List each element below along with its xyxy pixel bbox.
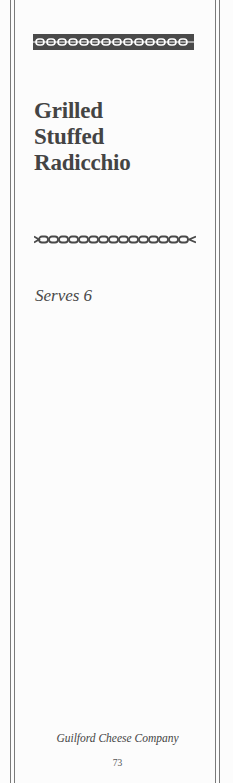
right-inner-rule <box>215 0 216 783</box>
recipe-title-line-3: Radicchio <box>34 150 131 176</box>
book-page: Grilled Stuffed Radicchio <box>0 0 233 783</box>
chain-divider <box>34 235 196 244</box>
top-chain-ornament <box>33 34 194 50</box>
chain-ornament-icon <box>33 34 194 50</box>
page-number: 73 <box>20 758 215 768</box>
recipe-title-line-2: Stuffed <box>34 124 131 150</box>
left-outer-rule <box>10 0 11 783</box>
recipe-title: Grilled Stuffed Radicchio <box>34 98 131 176</box>
right-outer-rule <box>219 0 220 783</box>
recipe-title-line-1: Grilled <box>34 98 131 124</box>
chain-divider-icon <box>34 235 196 244</box>
left-inner-rule <box>14 0 15 783</box>
serves-text: Serves 6 <box>35 286 92 306</box>
footer-brand: Guilford Cheese Company <box>20 732 215 744</box>
